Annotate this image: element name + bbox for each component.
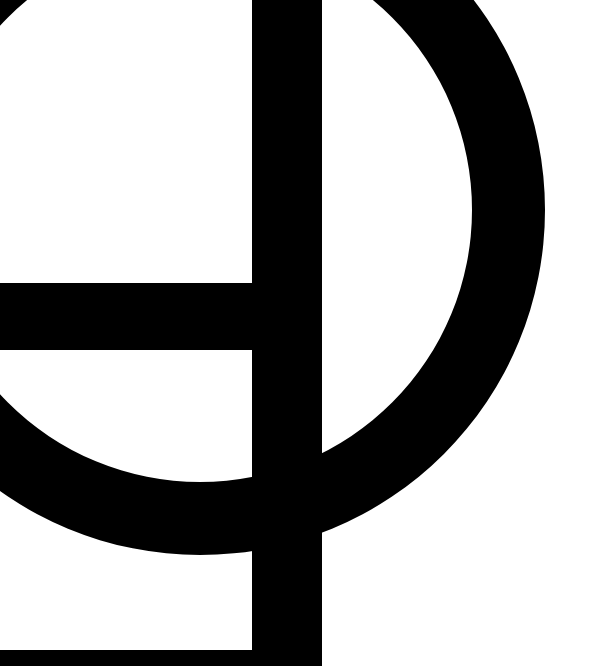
horizontal-bar <box>0 283 256 350</box>
symbol-graphic <box>0 0 610 666</box>
bottom-bar <box>0 650 322 666</box>
vertical-bar <box>252 0 322 666</box>
